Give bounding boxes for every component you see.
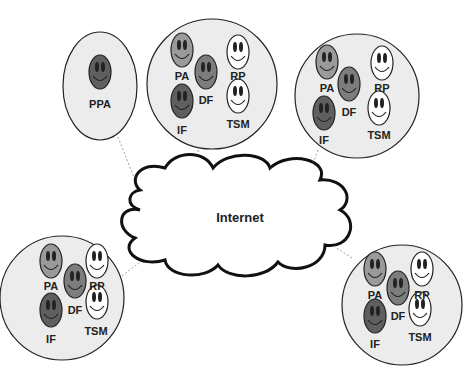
- agent-df-smiley-icon: [195, 55, 217, 89]
- internet-label: Internet: [216, 210, 264, 225]
- agent-rp-smiley-icon: [227, 35, 249, 69]
- group-bottom-right: PA RP DF IF TSM: [342, 245, 462, 365]
- agent-rp-smiley-icon: [86, 244, 108, 278]
- agent-label: TSM: [408, 331, 431, 343]
- link-bottom-right: [335, 247, 352, 258]
- agent-label: IF: [46, 333, 56, 345]
- internet-cloud: Internet: [122, 155, 351, 276]
- link-ppa: [118, 137, 135, 180]
- agent-label: IF: [177, 124, 187, 136]
- agent-label: RP: [374, 82, 389, 94]
- agent-rp-smiley-icon: [371, 46, 393, 80]
- agent-label: IF: [370, 338, 380, 350]
- agent-label: DF: [391, 310, 406, 322]
- agent-rp-smiley-icon: [411, 252, 433, 286]
- group-bottom-left: PA RP DF IF TSM: [0, 236, 124, 360]
- agent-label: PA: [44, 280, 59, 292]
- agent-pa-smiley-icon: [171, 33, 193, 67]
- agent-pa-smiley-icon: [40, 244, 62, 278]
- agent-label: PPA: [89, 98, 111, 110]
- architecture-diagram: PPA PA RP DF IF TSM PA RP DF IF TSM: [0, 0, 473, 375]
- agent-label: TSM: [367, 129, 390, 141]
- agent-label: PA: [175, 70, 190, 82]
- agent-label: DF: [68, 304, 83, 316]
- agent-if-smiley-icon: [364, 299, 386, 333]
- agent-tsm-smiley-icon: [227, 79, 249, 113]
- agent-label: TSM: [84, 325, 107, 337]
- link-bottom-left: [122, 262, 140, 276]
- agent-df-smiley-icon: [387, 271, 409, 305]
- agent-label: DF: [199, 94, 214, 106]
- agent-label: IF: [319, 134, 329, 146]
- agent-pa-smiley-icon: [316, 45, 338, 79]
- agent-if-smiley-icon: [313, 96, 335, 130]
- agent-label: DF: [342, 106, 357, 118]
- agent-label: PA: [320, 82, 335, 94]
- group-top-right: PA RP DF IF TSM: [295, 34, 419, 158]
- agent-df-smiley-icon: [64, 264, 86, 298]
- agent-label: RP: [230, 70, 245, 82]
- agent-pa-smiley-icon: [364, 252, 386, 286]
- group-ppa: PPA: [63, 32, 137, 140]
- agent-label: RP: [89, 280, 104, 292]
- agent-if-smiley-icon: [171, 84, 193, 118]
- agent-label: TSM: [226, 118, 249, 130]
- agent-ppa-smiley-icon: [89, 55, 111, 89]
- agent-df-smiley-icon: [338, 67, 360, 101]
- agent-if-smiley-icon: [40, 293, 62, 327]
- agent-label: RP: [414, 289, 429, 301]
- agent-label: PA: [368, 289, 383, 301]
- group-top-center: PA RP DF IF TSM: [147, 19, 277, 149]
- agent-tsm-smiley-icon: [368, 91, 390, 125]
